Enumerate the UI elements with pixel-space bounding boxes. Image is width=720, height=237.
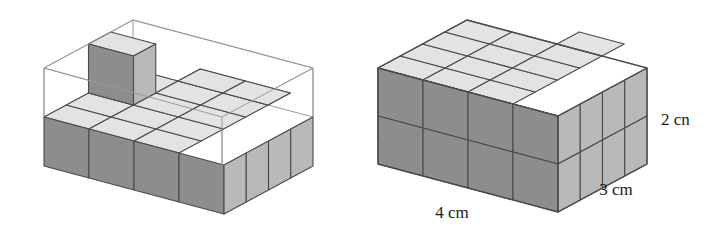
height-label: 2 cn (661, 110, 690, 129)
length-label: 4 cm (435, 203, 469, 222)
single-top-cube (89, 32, 156, 105)
cube-volume-figure: 4 cm 3 cm 2 cn (0, 0, 720, 237)
width-label: 3 cm (599, 180, 633, 199)
